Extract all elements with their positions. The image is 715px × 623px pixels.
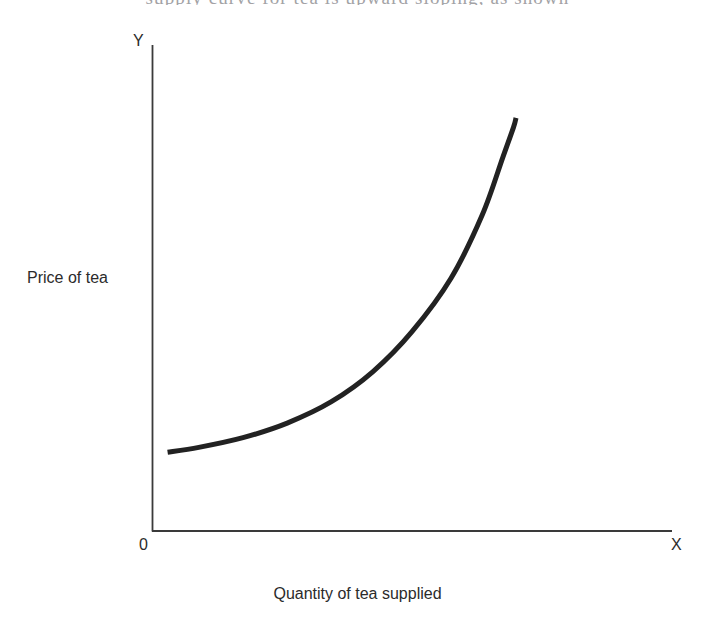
x-axis-tip-label: X xyxy=(671,537,682,553)
plot-area xyxy=(0,0,715,623)
supply-curve-line xyxy=(168,118,516,452)
y-axis-tip-label: Y xyxy=(133,33,144,49)
y-axis-title: Price of tea xyxy=(27,270,108,286)
origin-label: 0 xyxy=(139,537,148,553)
x-axis-title: Quantity of tea supplied xyxy=(0,586,715,602)
supply-curve-figure: supply curve for tea is upward sloping, … xyxy=(0,0,715,623)
